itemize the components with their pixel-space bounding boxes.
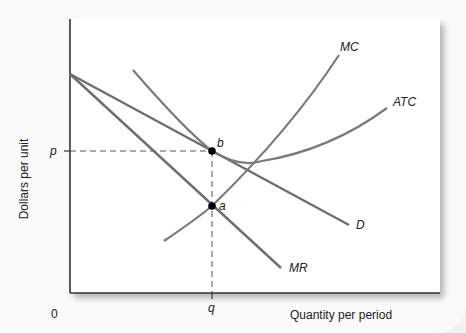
y-axis-label: Dollars per unit bbox=[17, 119, 31, 239]
mc-label: MC bbox=[340, 40, 359, 54]
point-b-label: b bbox=[217, 136, 224, 150]
point-b bbox=[208, 147, 216, 155]
x-axis-label: Quantity per period bbox=[290, 308, 392, 322]
point-a-label: a bbox=[219, 199, 226, 213]
point-a bbox=[208, 202, 216, 210]
mr-label: MR bbox=[289, 261, 308, 275]
atc-label: ATC bbox=[392, 95, 416, 109]
origin-label: 0 bbox=[51, 307, 58, 321]
quantity-label: q bbox=[208, 301, 215, 315]
price-label: p bbox=[49, 144, 57, 158]
d-label: D bbox=[356, 218, 365, 232]
diagram-canvas: MC ATC D MR b a p q bbox=[0, 0, 466, 333]
average-total-cost-curve bbox=[133, 70, 387, 163]
